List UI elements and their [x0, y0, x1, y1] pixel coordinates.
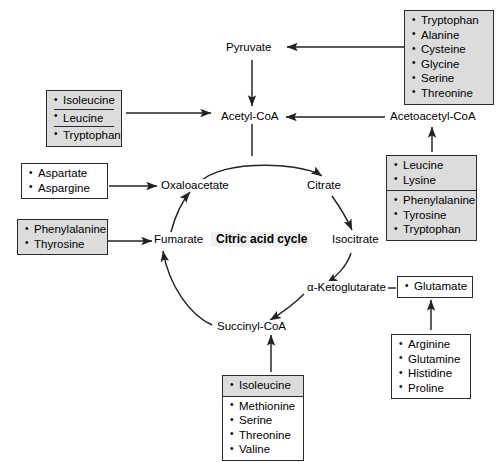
list-item: Threonine [230, 428, 296, 443]
list-item: Isoleucine [230, 378, 296, 393]
cycle-center-label: Citric acid cycle [211, 232, 312, 247]
list-item: Threonine [412, 86, 486, 101]
aabox-segment-top: Isoleucine [223, 376, 303, 396]
list-item: Alanine [412, 28, 486, 43]
list-item: Tyrosine [394, 208, 469, 223]
list-item: Glutamate [405, 279, 465, 294]
arc-succinylcoa-to-fumarate [163, 251, 212, 325]
list-item: Leucine [394, 158, 469, 173]
aabox-segment-top: Leucine Lysine [387, 156, 476, 190]
aabox-to-acetyl-coa: Isoleucine Leucine Tryptophan [46, 90, 122, 147]
node-oxaloacetate: Oxaloacetate [159, 179, 231, 192]
aabox-segment: Phenylalanine Thyrosine [18, 220, 107, 254]
list-item: Histidine [399, 366, 463, 381]
aabox-to-fumarate: Phenylalanine Thyrosine [17, 219, 108, 255]
list-item: Phenylalanine [25, 222, 100, 237]
list-item: Tryptophan [394, 222, 469, 237]
arc-fumarate-to-oxaloacetate [171, 192, 190, 232]
list-item: Serine [230, 413, 296, 428]
node-isocitrate: Isocitrate [330, 233, 381, 246]
node-succinyl-coa: Succinyl-CoA [215, 320, 288, 333]
list-item: Proline [399, 381, 463, 396]
list-item: Methionine [230, 399, 296, 414]
arc-citrate-to-isocitrate [332, 196, 352, 230]
list-item: Leucine [54, 109, 114, 126]
list-item: Glycine [412, 57, 486, 72]
list-item: Aspartate [29, 166, 100, 181]
node-acetoacetyl-coa: Acetoacetyl-CoA [388, 110, 478, 123]
list-item: Arginine [399, 337, 463, 352]
aabox-segment: Arginine Glutamine Histidine Proline [392, 335, 470, 398]
list-item: Tryptophan [412, 13, 486, 28]
aabox-to-succinyl-coa: Isoleucine Methionine Serine Threonine V… [222, 375, 304, 461]
aabox-segment: Isoleucine Leucine Tryptophan [47, 91, 121, 146]
aabox-segment-bottom: Phenylalanine Tyrosine Tryptophan [387, 190, 476, 240]
aabox-segment: Tryptophan Alanine Cysteine Glycine Seri… [405, 11, 493, 104]
list-item: Tryptophan [54, 126, 114, 143]
node-acetyl-coa: Acetyl-CoA [219, 110, 281, 123]
list-item: Serine [412, 71, 486, 86]
aabox-to-oxaloacetate: Aspartate Aspargine [21, 163, 108, 199]
node-alpha-ketoglutarate: α-Ketoglutarate [305, 281, 388, 294]
aabox-glutamate: Glutamate [397, 276, 473, 298]
node-fumarate: Fumarate [152, 233, 205, 246]
list-item: Thyrosine [25, 237, 100, 252]
diagram-canvas: Pyruvate Acetyl-CoA Acetoacetyl-CoA Oxal… [0, 0, 499, 462]
list-item: Aspargine [29, 181, 100, 196]
list-item: Valine [230, 442, 296, 457]
aabox-segment: Glutamate [398, 277, 472, 297]
aabox-to-glutamate: Arginine Glutamine Histidine Proline [391, 334, 471, 399]
list-item: Lysine [394, 173, 469, 188]
list-item: Isoleucine [54, 93, 114, 108]
aabox-to-acetoacetyl-coa: Leucine Lysine Phenylalanine Tyrosine Tr… [386, 155, 477, 241]
node-pyruvate: Pyruvate [224, 41, 273, 54]
aabox-to-pyruvate: Tryptophan Alanine Cysteine Glycine Seri… [404, 10, 494, 105]
list-item: Cysteine [412, 42, 486, 57]
aabox-segment: Aspartate Aspargine [22, 164, 107, 198]
arc-isocitrate-to-ketoglutarate [327, 253, 351, 283]
list-item: Glutamine [399, 352, 463, 367]
aabox-segment-bottom: Methionine Serine Threonine Valine [223, 396, 303, 460]
node-citrate: Citrate [305, 179, 343, 192]
list-item: Phenylalanine [394, 193, 469, 208]
arc-ketoglutarate-to-succinylcoa [270, 294, 304, 320]
